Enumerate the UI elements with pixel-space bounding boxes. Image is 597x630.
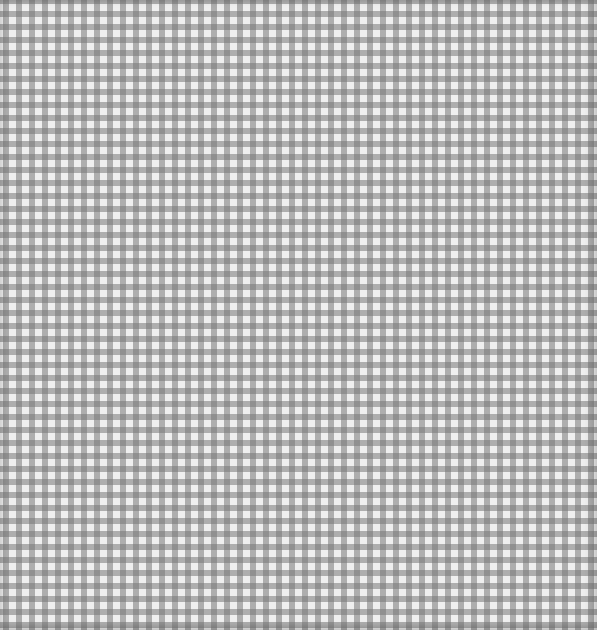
edge-shading xyxy=(0,0,597,630)
